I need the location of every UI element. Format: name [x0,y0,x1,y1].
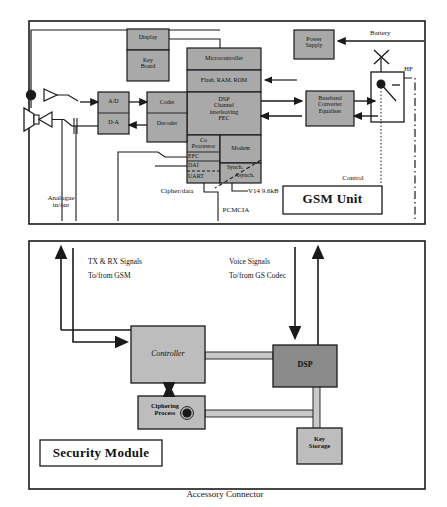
block-diagram-figure: Display Key Board Microcontroller Flash.… [0,0,447,507]
keyboard-block [127,50,169,81]
security-module-panel [29,241,425,489]
coprocessor-block [187,135,220,183]
power-supply-block [294,30,334,59]
coder-decoder-block [147,92,187,142]
security-dsp-block [273,345,337,387]
gsm-unit-panel [24,21,425,224]
key-storage-block [297,428,342,464]
modem-block [220,135,261,163]
baseband-block [306,91,354,126]
microcontroller-block [187,48,261,70]
dsp-channel-block [187,92,261,135]
memory-block [187,70,261,92]
controller-block [131,326,205,383]
ciphering-process-block [138,396,205,429]
display-block [127,29,169,50]
diagram-canvas [0,0,447,507]
adc-dac-block [98,92,129,134]
